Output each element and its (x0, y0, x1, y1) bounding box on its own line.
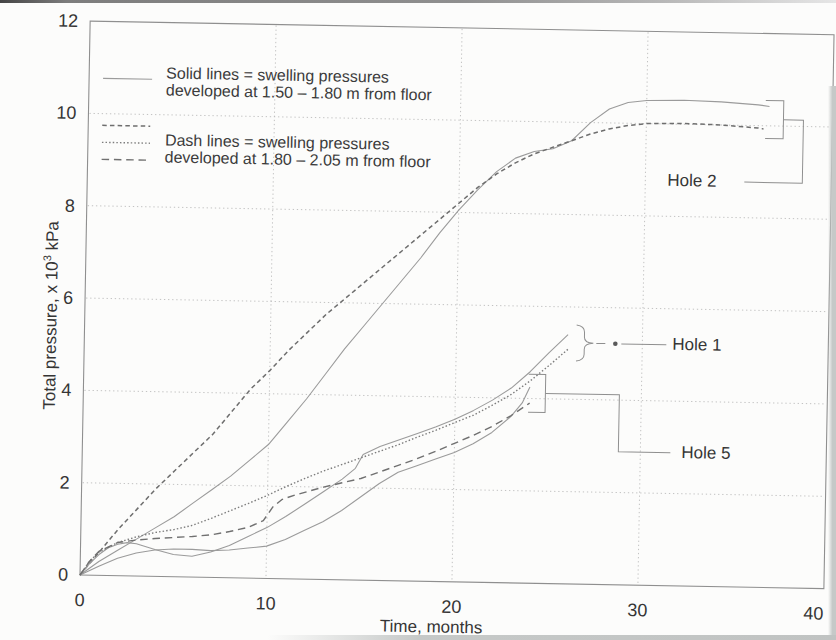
legend-short-dash-swatch (102, 125, 150, 126)
hole1-pointer-dot (613, 341, 618, 346)
y-tick-8: 8 (33, 195, 75, 216)
y-axis-title-prefix: Total pressure, x 10 (40, 261, 62, 410)
y-axis-title-suffix: kPa (43, 221, 63, 255)
gridline-y8 (88, 206, 830, 220)
legend-solid-swatch (103, 78, 152, 79)
gridline-y4 (84, 390, 826, 404)
scanned-figure-page: 12 10 8 6 4 2 0 0 10 20 30 40 Time, mont… (0, 0, 836, 640)
hole2-annotation-lines (744, 100, 803, 183)
hole5-connector (544, 393, 671, 452)
legend-dot-swatch (102, 142, 150, 143)
hole2-dash-curve (80, 112, 764, 587)
legend-dash-text: Dash lines = swelling pressures develope… (165, 131, 432, 170)
gridline-x30 (638, 32, 648, 584)
hole5-label: Hole 5 (681, 442, 731, 464)
y-axis-title: Total pressure, x 103 kPa (38, 221, 63, 410)
hole2-connector (744, 119, 803, 183)
hole1-brace (576, 325, 594, 361)
hole1-dash-curve (80, 341, 568, 584)
y-tick-2: 2 (28, 472, 70, 493)
legend-long-dash-swatch (102, 159, 150, 160)
gridline-x20 (452, 29, 462, 581)
legend-swatches (102, 78, 152, 160)
page-edge-top (0, 0, 836, 3)
y-tick-0: 0 (26, 564, 68, 585)
legend-solid-text: Solid lines = swelling pressures develop… (166, 64, 433, 103)
x-tick-20: 20 (427, 596, 475, 617)
y-tick-12: 12 (36, 10, 78, 31)
x-tick-10: 10 (241, 593, 289, 614)
hole1-solid-curve (80, 326, 568, 584)
hole1-annotation-lines (576, 325, 667, 363)
page-edge-right (828, 86, 836, 640)
y-tick-10: 10 (34, 102, 76, 123)
y-axis-title-sup: 3 (41, 255, 53, 261)
hole5-solid-curve (80, 379, 530, 583)
hole2-label: Hole 2 (667, 170, 717, 192)
x-tick-0: 0 (55, 590, 103, 611)
hole5-dash-curve (80, 395, 530, 583)
page-edge-bottom (0, 635, 836, 640)
hole1-label: Hole 1 (672, 334, 722, 356)
hole1-pointer-line (621, 344, 666, 345)
x-tick-30: 30 (613, 600, 661, 621)
hole5-annotation-lines (527, 374, 671, 453)
figure-scan: 12 10 8 6 4 2 0 0 10 20 30 40 Time, mont… (0, 0, 836, 640)
